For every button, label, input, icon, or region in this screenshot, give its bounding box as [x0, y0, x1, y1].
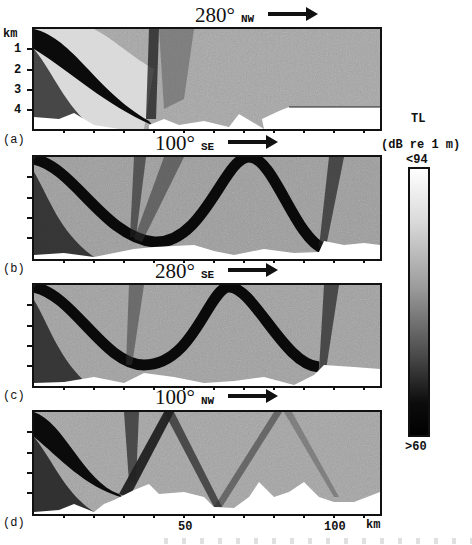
y-tick: [27, 431, 33, 433]
caption-text-fragment: [150, 538, 472, 544]
tl-panel-b: [32, 155, 382, 261]
y-tick: [27, 472, 33, 474]
y-tick: [27, 365, 33, 367]
y-tick: [27, 345, 33, 347]
y-tick: [27, 325, 33, 327]
colorbar-bottom-label: >60: [405, 440, 427, 454]
panel-label-d: (d): [3, 516, 25, 530]
panel-b-header: 100° SE: [155, 131, 274, 156]
x-axis-unit: km: [366, 518, 380, 532]
right-arrow-icon: [228, 268, 274, 272]
colorbar-top-label: <94: [406, 153, 428, 167]
y-tick: [27, 217, 33, 219]
tl-heatmap-d: [34, 412, 380, 514]
y-tick: [27, 492, 33, 494]
y-tick-label: 4: [14, 103, 21, 117]
direction-label: SE: [201, 269, 214, 281]
tl-heatmap-c: [34, 285, 380, 386]
tl-heatmap-a: [34, 29, 380, 129]
y-tick: [27, 197, 33, 199]
right-arrow-icon: [268, 12, 314, 16]
y-tick-label: 3: [14, 83, 21, 97]
y-tick-label: 1: [14, 42, 21, 56]
y-tick: [27, 109, 33, 111]
colorbar-title: TL: [411, 112, 425, 126]
tl-panel-c: [32, 283, 382, 388]
y-tick: [27, 176, 33, 178]
bearing-label: 100°: [155, 385, 195, 410]
tl-panel-d: [32, 410, 382, 516]
bearing-label: 280°: [155, 259, 195, 284]
direction-label: NW: [241, 13, 254, 25]
panel-label-c: (c): [3, 389, 25, 403]
tl-panel-a: [32, 27, 382, 131]
x-tick-label: 50: [178, 520, 192, 534]
direction-label: NW: [201, 395, 214, 407]
y-tick: [27, 452, 33, 454]
y-tick: [27, 304, 33, 306]
direction-label: SE: [201, 141, 214, 153]
y-tick: [27, 48, 33, 50]
colorbar: [408, 167, 430, 437]
panel-a-header: 280° NW: [195, 3, 314, 28]
panel-label-b: (b): [3, 262, 25, 276]
tl-heatmap-b: [34, 157, 380, 259]
y-tick: [27, 237, 33, 239]
bearing-label: 100°: [155, 131, 195, 156]
y-tick: [27, 89, 33, 91]
panel-label-a: (a): [3, 133, 25, 147]
bearing-label: 280°: [195, 3, 235, 28]
right-arrow-icon: [228, 394, 274, 398]
colorbar-units: (dB re 1 m): [381, 138, 460, 152]
y-tick-label: 2: [14, 63, 21, 77]
x-tick-label: 100: [324, 520, 346, 534]
y-axis-unit: km: [3, 27, 17, 41]
y-tick: [27, 69, 33, 71]
right-arrow-icon: [228, 140, 274, 144]
